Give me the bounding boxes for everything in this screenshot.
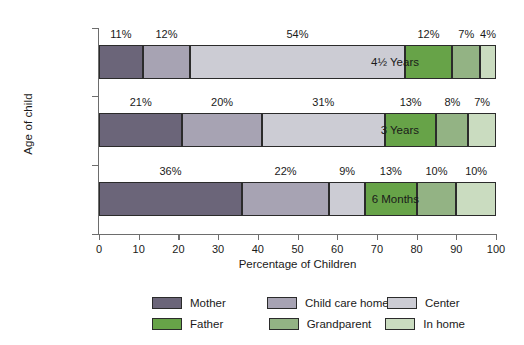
legend-item[interactable]: In home	[385, 318, 502, 330]
plot-area: 0102030405060708090100 11%12%54%12%7%4%2…	[99, 22, 496, 234]
legend-swatch	[267, 297, 297, 309]
segment-value-label: 13%	[380, 165, 402, 177]
legend-item[interactable]: Center	[387, 297, 502, 309]
y-tick	[92, 96, 99, 97]
legend-item[interactable]: Child care home	[267, 297, 387, 309]
x-axis-title: Percentage of Children	[99, 258, 496, 270]
legend-swatch	[385, 318, 415, 330]
category-label: 4½ Years	[371, 56, 419, 68]
y-axis-title: Age of child	[22, 54, 34, 194]
stacked-bar[interactable]	[99, 45, 496, 79]
segment-value-label: 4%	[480, 28, 496, 40]
bar-segment[interactable]	[143, 45, 191, 79]
x-tick	[337, 234, 338, 240]
bar-segment[interactable]	[452, 45, 480, 79]
bar-segment[interactable]	[262, 113, 385, 147]
x-tick-label: 80	[410, 243, 422, 255]
legend-swatch	[387, 297, 417, 309]
legend-label: Child care home	[305, 297, 389, 309]
x-tick-label: 0	[96, 243, 102, 255]
legend-label: Mother	[190, 297, 226, 309]
legend-swatch	[152, 297, 182, 309]
segment-value-label: 12%	[155, 28, 177, 40]
bar-segment[interactable]	[329, 182, 365, 216]
legend-row: MotherChild care homeCenter	[152, 292, 502, 313]
segment-value-label: 54%	[286, 28, 308, 40]
segment-value-label: 11%	[110, 28, 131, 40]
bar-segment[interactable]	[468, 113, 496, 147]
x-tick-label: 60	[331, 243, 343, 255]
segment-value-label: 7%	[458, 28, 474, 40]
x-tick-label: 50	[291, 243, 303, 255]
bar-segment[interactable]	[456, 182, 496, 216]
y-tick	[92, 28, 99, 29]
x-tick	[456, 234, 457, 240]
stacked-bar-chart: Age of child 0102030405060708090100 11%1…	[0, 0, 524, 345]
x-tick-label: 90	[450, 243, 462, 255]
x-tick-label: 40	[252, 243, 264, 255]
legend-row: FatherGrandparentIn home	[152, 313, 502, 334]
legend-item[interactable]: Grandparent	[269, 318, 386, 330]
x-tick-label: 70	[371, 243, 383, 255]
x-tick-label: 10	[133, 243, 145, 255]
x-tick	[139, 234, 140, 240]
legend-label: Center	[425, 297, 460, 309]
bar-segment[interactable]	[99, 182, 242, 216]
x-tick-label: 30	[212, 243, 224, 255]
stacked-bar[interactable]	[99, 113, 496, 147]
segment-value-label: 13%	[400, 96, 422, 108]
legend-label: Grandparent	[307, 318, 372, 330]
bar-segment[interactable]	[480, 45, 496, 79]
bar-segment[interactable]	[417, 182, 457, 216]
x-tick	[298, 234, 299, 240]
x-tick-label: 100	[487, 243, 505, 255]
bar-segment[interactable]	[242, 182, 329, 216]
legend-swatch	[269, 318, 299, 330]
y-tick	[92, 234, 99, 235]
legend-item[interactable]: Father	[152, 318, 269, 330]
segment-value-label: 20%	[211, 96, 233, 108]
x-tick	[218, 234, 219, 240]
segment-value-label: 9%	[339, 165, 355, 177]
segment-value-label: 36%	[159, 165, 181, 177]
bar-segment[interactable]	[182, 113, 261, 147]
x-tick	[377, 234, 378, 240]
segment-value-label: 21%	[130, 96, 152, 108]
segment-value-label: 7%	[474, 96, 490, 108]
legend-swatch	[152, 318, 182, 330]
segment-value-label: 12%	[417, 28, 439, 40]
x-tick-label: 20	[172, 243, 184, 255]
legend-label: In home	[423, 318, 465, 330]
bar-segment[interactable]	[99, 45, 143, 79]
segment-value-label: 31%	[312, 96, 334, 108]
segment-value-label: 10%	[425, 165, 447, 177]
x-tick	[99, 234, 100, 240]
legend-label: Father	[190, 318, 223, 330]
x-tick	[496, 234, 497, 240]
chart-legend: MotherChild care homeCenterFatherGrandpa…	[152, 292, 502, 334]
segment-value-label: 10%	[465, 165, 487, 177]
bar-segment[interactable]	[99, 113, 182, 147]
x-tick	[417, 234, 418, 240]
stacked-bar[interactable]	[99, 182, 496, 216]
category-label: 6 Months	[372, 193, 419, 205]
segment-value-label: 8%	[444, 96, 460, 108]
segment-value-label: 22%	[275, 165, 297, 177]
category-label: 3 Years	[381, 124, 419, 136]
x-tick	[258, 234, 259, 240]
legend-item[interactable]: Mother	[152, 297, 267, 309]
y-tick	[92, 165, 99, 166]
bar-segment[interactable]	[436, 113, 468, 147]
x-tick	[178, 234, 179, 240]
